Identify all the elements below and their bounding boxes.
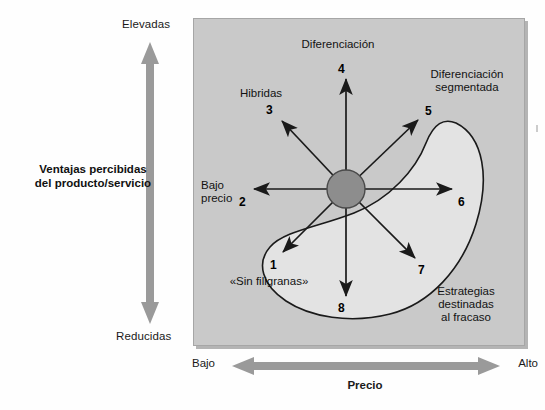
label-sin-filigranas: «Sin filigranas» (194, 275, 344, 288)
y-axis-title-line-2: del producto/servicio (8, 176, 178, 190)
label-estrategias-line-3: al fracaso (414, 311, 518, 324)
label-estrategias-line-2: destinadas (414, 298, 518, 311)
label-diferenciacion-segmentada-line-2: segmentada (408, 81, 525, 94)
central-hub (327, 170, 365, 208)
chart-panel: Diferenciación Diferenciación segmentada… (193, 18, 525, 346)
node-number-2: 2 (239, 195, 246, 209)
x-axis-low-label: Bajo (192, 357, 215, 369)
label-diferenciacion: Diferenciación (273, 38, 403, 51)
label-bajo-precio-line-1: Bajo (201, 179, 247, 192)
y-axis-low-label: Reducidas (116, 330, 171, 342)
node-number-1: 1 (270, 258, 277, 272)
node-number-7: 7 (418, 263, 425, 277)
y-axis-title-line-1: Ventajas percibidas (8, 162, 178, 176)
y-axis-high-label: Elevadas (122, 18, 170, 30)
diagram-canvas: Elevadas Reducidas Ventajas percibidas d… (0, 0, 545, 410)
label-estrategias-destinadas-al-fracaso: Estrategias destinadas al fracaso (414, 285, 518, 324)
node-number-4: 4 (338, 62, 345, 76)
scan-artifact-speck (536, 125, 538, 132)
label-diferenciacion-segmentada-line-1: Diferenciación (408, 68, 525, 81)
x-axis-title: Precio (190, 379, 540, 391)
node-number-5: 5 (425, 104, 432, 118)
y-axis-title: Ventajas percibidas del producto/servici… (8, 162, 178, 190)
node-number-6: 6 (458, 195, 465, 209)
node-number-8: 8 (338, 301, 345, 315)
node-number-3: 3 (266, 103, 273, 117)
x-axis-arrow-icon (230, 355, 502, 377)
label-hibridas: Hibridas (206, 87, 316, 100)
label-estrategias-line-1: Estrategias (414, 285, 518, 298)
x-axis-high-label: Alto (518, 357, 538, 369)
label-diferenciacion-segmentada: Diferenciación segmentada (408, 68, 525, 94)
x-axis-group: Bajo Alto Precio (190, 355, 540, 405)
